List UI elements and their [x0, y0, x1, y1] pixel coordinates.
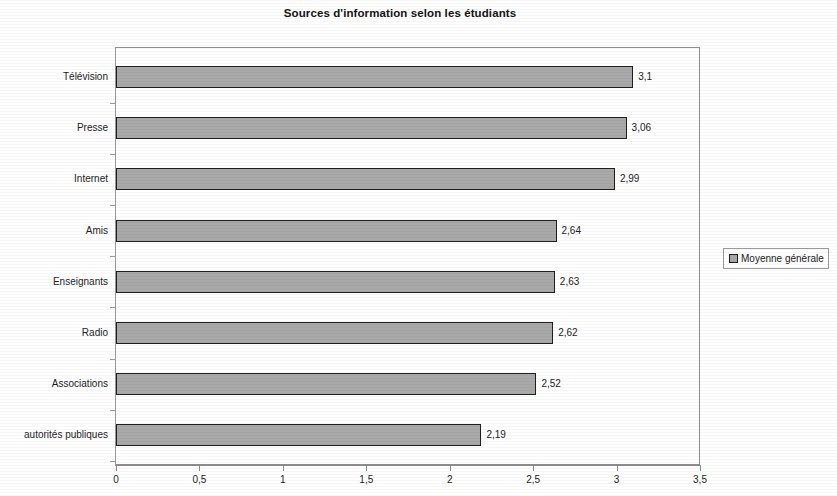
chart-title: Sources d'information selon les étudiant… — [0, 7, 800, 19]
x-axis-line — [115, 465, 701, 466]
y-axis-label-3: Internet — [0, 173, 108, 185]
y-axis-line — [115, 47, 116, 466]
y-axis-label-1: Télévision — [0, 71, 108, 83]
bar-value-label: 2,62 — [558, 327, 577, 339]
bar-value-label: 2,99 — [620, 173, 639, 185]
x-axis-tick-label: 0,5 — [169, 474, 229, 485]
y-axis-tick — [110, 461, 115, 462]
y-axis-tick — [110, 103, 115, 104]
bar-value-label: 2,52 — [541, 378, 560, 390]
x-axis-tick — [199, 466, 200, 471]
bar — [116, 66, 633, 88]
bar-value-label: 2,19 — [486, 429, 505, 441]
x-axis-tick-label: 0 — [86, 474, 146, 485]
x-axis-tick — [450, 466, 451, 471]
x-axis-tick-label: 1 — [253, 474, 313, 485]
x-axis-tick — [533, 466, 534, 471]
x-axis-tick — [700, 466, 701, 471]
bar-value-label: 2,64 — [562, 225, 581, 237]
y-axis-label-7: Associations — [0, 378, 108, 390]
legend: Moyenne générale — [723, 248, 829, 269]
y-axis-tick — [110, 154, 115, 155]
bar — [116, 271, 555, 293]
legend-swatch-icon — [729, 254, 738, 263]
y-axis-label-4: Amis — [0, 225, 108, 237]
x-axis-tick — [116, 466, 117, 471]
bar — [116, 117, 627, 139]
y-axis-label-8: autorités publiques — [0, 429, 108, 441]
x-axis-tick-label: 3,5 — [670, 474, 730, 485]
bar — [116, 373, 536, 395]
y-axis-label-2: Presse — [0, 122, 108, 134]
bar-value-label: 3,06 — [632, 122, 651, 134]
bar-chart: Sources d'information selon les étudiant… — [0, 0, 837, 496]
y-axis-tick — [110, 410, 115, 411]
legend-label-moyenne-generale: Moyenne générale — [741, 253, 824, 265]
y-axis-tick — [110, 359, 115, 360]
x-axis-tick-label: 2,5 — [503, 474, 563, 485]
y-axis-tick — [110, 307, 115, 308]
bar — [116, 168, 615, 190]
bar — [116, 220, 557, 242]
x-axis-tick-label: 2 — [420, 474, 480, 485]
plot-area — [115, 47, 700, 465]
x-axis-tick — [283, 466, 284, 471]
x-axis-tick — [366, 466, 367, 471]
bar-value-label: 2,63 — [560, 276, 579, 288]
x-axis-tick — [617, 466, 618, 471]
bar — [116, 424, 481, 446]
y-axis-label-6: Radio — [0, 327, 108, 339]
bar-value-label: 3,1 — [638, 71, 652, 83]
y-axis-tick — [110, 205, 115, 206]
bar — [116, 322, 553, 344]
y-axis-tick — [110, 256, 115, 257]
x-axis-tick-label: 1,5 — [336, 474, 396, 485]
x-axis-tick-label: 3 — [587, 474, 647, 485]
y-axis-label-5: Enseignants — [0, 276, 108, 288]
